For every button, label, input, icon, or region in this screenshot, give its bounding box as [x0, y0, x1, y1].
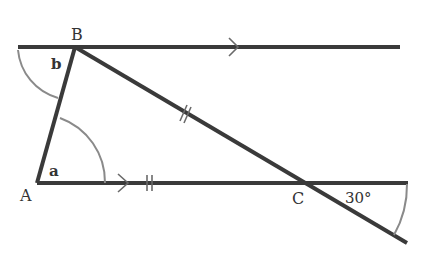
angle-label-30: 30°	[345, 189, 372, 207]
angle-arc-c	[394, 184, 407, 235]
angle-label-a: a	[49, 162, 59, 180]
point-label-b: B	[71, 25, 83, 44]
point-label-c: C	[292, 189, 304, 208]
angle-arc-a	[60, 118, 105, 183]
point-label-a: A	[19, 186, 32, 205]
segment-bc-extended	[75, 47, 407, 243]
geometry-diagram: B A C b a 30°	[0, 0, 423, 267]
angle-label-b: b	[51, 55, 62, 73]
